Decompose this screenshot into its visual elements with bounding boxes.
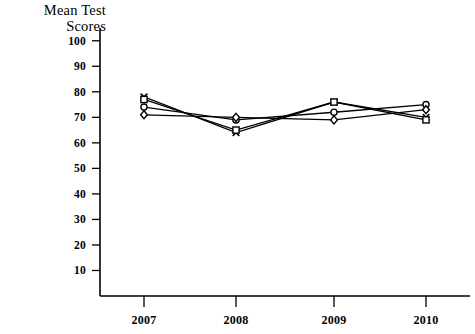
y-tick-label: 90 (74, 60, 86, 72)
x-tick-label: 2007 (131, 313, 156, 327)
y-tick-label: 20 (74, 239, 86, 251)
data-point-marker-square (331, 99, 337, 105)
data-point-marker-diamond (331, 116, 338, 124)
y-tick-label: 50 (74, 162, 86, 174)
data-point-marker-diamond (141, 111, 148, 119)
y-tick-label: 60 (74, 137, 86, 149)
y-tick-label: 80 (74, 86, 86, 98)
data-point-marker-square (233, 127, 239, 133)
y-tick-label: 30 (74, 213, 86, 225)
y-axis-ticks: 102030405060708090100 (68, 35, 100, 277)
data-point-marker-square (423, 117, 429, 123)
y-tick-label: 40 (74, 188, 86, 200)
x-tick-label: 2009 (321, 313, 346, 327)
chart-container: Mean Test Scores 102030405060708090100 2… (0, 0, 475, 334)
x-axis-ticks: 2007200820092010 (131, 296, 438, 327)
data-point-marker-circle (331, 109, 337, 115)
y-tick-label: 10 (74, 264, 86, 276)
data-series-group (141, 94, 430, 136)
x-tick-label: 2010 (413, 313, 438, 327)
plot-area: 102030405060708090100 2007200820092010 (0, 0, 475, 334)
y-tick-label: 100 (68, 35, 86, 47)
data-point-marker-circle (141, 104, 147, 110)
data-point-marker-square (141, 96, 147, 102)
y-tick-label: 70 (74, 111, 86, 123)
x-tick-label: 2008 (223, 313, 248, 327)
